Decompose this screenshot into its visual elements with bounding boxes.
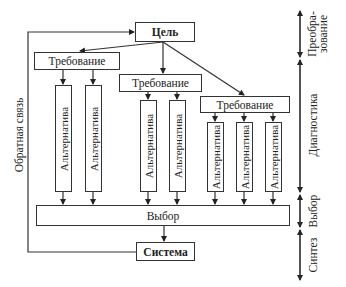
alternative-label: Альтернатива [58,106,70,170]
alternative-box: Альтернатива [265,122,282,192]
alternative-label: Альтернатива [88,106,100,170]
stage-synthesis-label: Синтез [308,238,319,273]
requirement-box-2: Требование [119,74,202,92]
alternative-box: Альтернатива [55,85,72,192]
goal-box: Цель [135,22,195,42]
alternative-label: Альтернатива [143,114,155,178]
requirement-box-1: Требование [34,52,120,70]
requirement-label: Требование [132,77,189,89]
requirement-box-3: Требование [200,96,290,113]
alternative-box: Альтернатива [169,100,186,192]
stage-transformation-label: Преобра- зование [307,11,329,56]
goal-label: Цель [152,26,179,38]
alternative-box: Альтернатива [85,85,102,192]
system-box: Система [136,242,195,261]
system-label: Система [143,246,187,258]
stage-choice-label: Выбор [308,195,319,228]
alternative-box: Альтернатива [140,100,157,192]
feedback-label: Обратная связь [14,98,25,173]
requirement-label: Требование [49,55,106,67]
alternative-label: Альтернатива [268,125,280,189]
alternative-label: Альтернатива [172,114,184,178]
choice-label: Выбор [147,210,180,222]
alternative-box: Альтернатива [236,122,253,192]
choice-box: Выбор [36,205,290,226]
alternative-box: Альтернатива [207,122,224,192]
stage-diagnostics-label: Диагностика [308,94,319,157]
alternative-label: Альтернатива [210,125,222,189]
requirement-label: Требование [217,99,274,111]
alternative-label: Альтернатива [239,125,251,189]
